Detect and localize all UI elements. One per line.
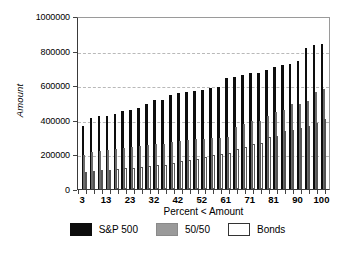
bar-bonds (132, 168, 134, 189)
white-swatch-icon (228, 223, 250, 236)
y-axis-tick-label: 600000 (41, 81, 70, 91)
bar-group (313, 18, 321, 189)
bar-group (273, 18, 281, 189)
legend-label-bonds: Bonds (257, 224, 285, 235)
y-axis-tick (73, 155, 77, 156)
bar-group (121, 18, 129, 189)
bar-group (233, 18, 241, 189)
x-axis-title: Percent < Amount (77, 206, 330, 217)
bar-bonds (164, 165, 166, 189)
bar-bonds (204, 157, 206, 189)
y-axis-tick (73, 52, 77, 53)
bar-group (169, 18, 177, 189)
bar-group (98, 18, 106, 189)
bar-bonds (124, 168, 126, 189)
bar-bonds (116, 169, 118, 189)
x-axis-tick-label: 90 (292, 194, 303, 205)
x-axis-tick-label: 52 (196, 194, 207, 205)
bar-group (153, 18, 161, 189)
bar-bonds (324, 119, 326, 189)
y-axis-tick-label: 1000000 (36, 12, 70, 22)
bar-bonds (244, 147, 246, 189)
bar-group (217, 18, 225, 189)
bar-group (114, 18, 122, 189)
legend-item-5050: 50/50 (156, 223, 210, 236)
x-axis-tick-label: 61 (220, 194, 231, 205)
bar-bonds (220, 154, 222, 189)
bar-group (241, 18, 249, 189)
bar-group (177, 18, 185, 189)
legend-item-sp500: S&P 500 (70, 223, 138, 236)
bar-bonds (180, 161, 182, 189)
bar-bonds (260, 143, 262, 189)
bar-group (90, 18, 98, 189)
bar-bonds (292, 130, 294, 189)
x-axis-tick-label: 23 (125, 194, 136, 205)
bar-group (209, 18, 217, 189)
bar-bonds (228, 153, 230, 189)
bar-group (281, 18, 289, 189)
bar-bonds (109, 170, 111, 189)
x-axis-tick-label: 3 (79, 194, 84, 205)
bar-bonds (308, 126, 310, 189)
legend-label-sp500: S&P 500 (99, 224, 138, 235)
x-axis-tick-label: 100 (314, 194, 330, 205)
bar-group (265, 18, 273, 189)
x-axis-tick-label: 81 (268, 194, 279, 205)
bar-chart: Amount 02000004000006000008000001000000 … (0, 0, 355, 253)
bar-bonds (188, 160, 190, 189)
bar-bonds (284, 131, 286, 189)
y-axis-tick-label: 0 (65, 185, 70, 195)
y-axis-tick (73, 17, 77, 18)
legend-item-bonds: Bonds (228, 223, 285, 236)
bar-bonds (316, 123, 318, 189)
bar-group (145, 18, 153, 189)
plot-area (77, 17, 330, 190)
chart-legend: S&P 500 50/50 Bonds (0, 223, 355, 236)
bar-group (289, 18, 297, 189)
black-swatch-icon (70, 223, 92, 236)
bar-bonds (85, 172, 87, 189)
bar-bonds (196, 159, 198, 189)
bar-bonds (212, 155, 214, 189)
bar-group (129, 18, 137, 189)
bar-group (82, 18, 90, 189)
x-axis-tick-label: 32 (149, 194, 160, 205)
bar-bonds (236, 149, 238, 189)
x-axis-tick-label: 71 (244, 194, 255, 205)
bar-bonds (300, 128, 302, 189)
bar-group (297, 18, 305, 189)
bar-group (201, 18, 209, 189)
bar-group (249, 18, 257, 189)
bar-group (106, 18, 114, 189)
y-axis-tick (73, 190, 77, 191)
y-axis-tick (73, 86, 77, 87)
bar-group (257, 18, 265, 189)
bar-bonds (140, 167, 142, 189)
y-axis-tick-label: 400000 (41, 116, 70, 126)
bar-bonds (93, 171, 95, 189)
bar-bonds (156, 165, 158, 189)
gray-swatch-icon (156, 223, 178, 236)
bar-bonds (148, 166, 150, 189)
bar-bonds (268, 137, 270, 189)
bar-group (321, 18, 329, 189)
bar-bonds (172, 163, 174, 189)
x-axis-tick-label: 42 (173, 194, 184, 205)
bar-group (137, 18, 145, 189)
bar-group (305, 18, 313, 189)
x-axis-tick-label: 13 (101, 194, 112, 205)
y-axis-tick-label: 200000 (41, 150, 70, 160)
y-axis-tick (73, 121, 77, 122)
bar-bonds (101, 170, 103, 189)
bar-group (193, 18, 201, 189)
bar-group (225, 18, 233, 189)
bar-group (185, 18, 193, 189)
legend-label-5050: 50/50 (185, 224, 210, 235)
bar-group (161, 18, 169, 189)
bar-series-container (78, 18, 329, 189)
y-axis-tick-label: 800000 (41, 47, 70, 57)
bar-bonds (276, 136, 278, 189)
y-axis-tick-labels: 02000004000006000008000001000000 (0, 0, 74, 253)
bar-bonds (252, 144, 254, 189)
